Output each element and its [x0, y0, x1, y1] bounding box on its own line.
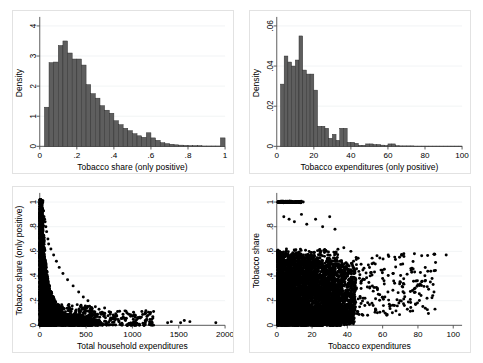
histogram-bar — [183, 145, 188, 146]
scatter-point — [420, 254, 423, 257]
scatter-point — [387, 274, 390, 277]
scatter-point — [127, 313, 130, 316]
scatter-point — [43, 218, 46, 221]
histogram-bar — [355, 143, 359, 146]
y-tick-label: 1 — [266, 199, 275, 204]
scatter-point — [310, 291, 313, 294]
scatter-point — [295, 256, 298, 259]
scatter-point — [280, 259, 283, 262]
scatter-point — [112, 317, 115, 320]
scatter-point — [311, 279, 314, 282]
scatter-point — [319, 305, 322, 308]
scatter-point — [329, 275, 332, 278]
scatter-point — [318, 311, 321, 314]
scatter-point — [284, 315, 287, 318]
scatter-point — [376, 254, 379, 257]
y-tick-label: 0 — [266, 144, 275, 149]
scatter-points — [39, 198, 218, 327]
scatter-point — [355, 256, 358, 259]
histogram-bar — [146, 133, 151, 147]
scatter-point — [101, 323, 104, 326]
y-tick-label: .2 — [266, 297, 275, 304]
scatter-point — [306, 317, 309, 320]
scatter-point — [302, 324, 305, 327]
scatter-point — [42, 269, 45, 272]
scatter-point — [360, 279, 363, 282]
scatter-point — [402, 282, 405, 285]
scatter-point — [351, 296, 354, 299]
scatter-point — [82, 323, 85, 326]
histogram-bar — [174, 145, 179, 147]
scatter-point — [327, 250, 330, 253]
scatter-point — [285, 311, 288, 314]
scatter-point — [152, 310, 155, 313]
scatter-point — [409, 301, 412, 304]
scatter-point — [427, 288, 430, 291]
scatter-point — [412, 280, 415, 283]
y-tick-label: .6 — [29, 247, 38, 254]
scatter-point — [323, 316, 326, 319]
panel-scatter-share-vs-total-expenditure: 0.2.4.6.810500100015002000Total househol… — [12, 186, 234, 353]
scatter-point — [47, 314, 50, 317]
scatter-point — [329, 272, 332, 275]
x-tick-label: 20 — [308, 330, 318, 339]
scatter-point — [74, 312, 77, 315]
scatter-point — [331, 321, 334, 324]
scatter-point — [309, 294, 312, 297]
scatter-point — [41, 293, 44, 296]
x-tick-label: 100 — [446, 330, 460, 339]
histogram-bar — [193, 146, 198, 147]
x-tick-label: 1000 — [123, 330, 142, 339]
x-tick-label: .8 — [185, 151, 192, 160]
scatter-point — [321, 254, 324, 257]
scatter-point — [376, 287, 379, 290]
scatter-point — [60, 303, 63, 306]
scatter-point — [335, 258, 338, 261]
scatter-point — [318, 287, 321, 290]
scatter-point — [411, 309, 414, 312]
scatter-point — [378, 293, 381, 296]
scatter-point — [291, 317, 294, 320]
scatter-point — [393, 256, 396, 259]
scatter-point — [433, 253, 436, 256]
scatter-point — [397, 302, 400, 305]
histogram-bar — [95, 98, 100, 146]
scatter-point — [143, 313, 146, 316]
scatter-point — [340, 261, 343, 264]
scatter-point — [140, 310, 143, 313]
scatter-points — [276, 200, 448, 327]
scatter-point — [413, 287, 416, 290]
scatter-point — [76, 303, 79, 306]
histogram-bar — [332, 134, 336, 146]
scatter-point — [296, 312, 299, 315]
scatter-point — [399, 281, 402, 284]
scatter-point — [357, 270, 360, 273]
scatter-point — [94, 305, 97, 308]
histogram-bar — [44, 107, 49, 146]
scatter-point — [290, 299, 293, 302]
histogram-bar — [165, 144, 170, 147]
scatter-point — [88, 314, 91, 317]
scatter-point — [149, 311, 152, 314]
scatter-point — [39, 216, 42, 219]
scatter-point — [353, 295, 356, 298]
scatter-point — [50, 291, 53, 294]
scatter-point — [42, 285, 45, 288]
scatter-point — [335, 292, 338, 295]
scatter-point — [409, 290, 412, 293]
scatter-point — [344, 292, 347, 295]
scatter-point — [329, 254, 332, 257]
scatter-point — [399, 274, 402, 277]
scatter-point — [81, 307, 84, 310]
histogram-bar — [295, 60, 299, 146]
scatter-point — [311, 285, 314, 288]
scatter-point — [335, 318, 338, 321]
scatter-point — [88, 309, 91, 312]
scatter-point — [431, 277, 434, 280]
scatter-point — [291, 279, 294, 282]
scatter-point — [414, 303, 417, 306]
histogram-bar — [132, 134, 137, 147]
scatter-point — [40, 213, 43, 216]
scatter-point — [214, 321, 217, 324]
scatter-point — [67, 303, 70, 306]
